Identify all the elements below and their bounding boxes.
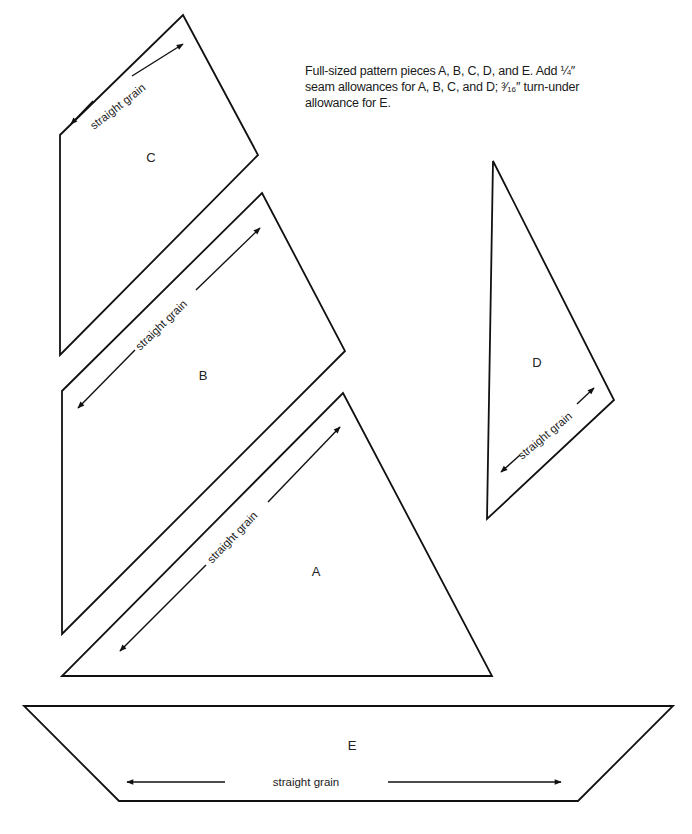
- piece-a-grain-arrow: straight grain: [120, 427, 340, 651]
- piece-e-grain-label: straight grain: [273, 776, 339, 788]
- piece-a-label: A: [312, 564, 321, 579]
- piece-e-label: E: [348, 738, 357, 753]
- piece-d-grain-arrow: straight grain: [501, 388, 594, 472]
- piece-b-label: B: [199, 368, 208, 383]
- piece-c-grain-arrow: straight grain: [71, 44, 183, 132]
- piece-e-grain-arrow: straight grain: [127, 776, 561, 788]
- piece-c-grain-label: straight grain: [88, 81, 148, 131]
- piece-a-grain-label: straight grain: [205, 509, 260, 565]
- piece-e-outline: [24, 706, 673, 801]
- pattern-piece-d: straight grain D: [487, 161, 614, 519]
- piece-d-outline: [487, 161, 614, 519]
- piece-c-outline: [60, 15, 258, 355]
- piece-b-grain-arrow: straight grain: [78, 228, 260, 408]
- piece-c-label: C: [146, 150, 155, 165]
- pattern-piece-e: straight grain E: [24, 706, 673, 801]
- pattern-piece-a: straight grain A: [62, 393, 492, 676]
- piece-b-grain-label: straight grain: [133, 298, 189, 353]
- piece-d-grain-label: straight grain: [516, 410, 575, 462]
- piece-d-label: D: [532, 355, 541, 370]
- piece-a-outline: [62, 393, 492, 676]
- pattern-piece-c: straight grain C: [60, 15, 258, 355]
- pattern-sheet: straight grain C straight grain B straig…: [0, 0, 692, 834]
